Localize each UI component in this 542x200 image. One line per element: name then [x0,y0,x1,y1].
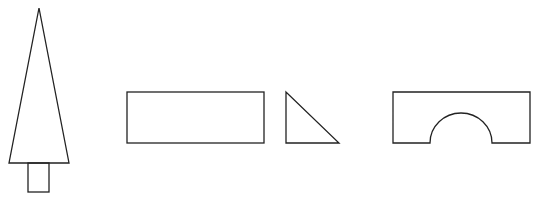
shapes-diagram [0,0,542,200]
arch-block [393,92,530,143]
rectangle-block [127,92,264,143]
right-triangle-block [286,92,339,143]
tree-shape [9,8,69,192]
tree-trunk-rectangle [28,163,49,192]
tree-canopy-triangle [9,8,69,163]
